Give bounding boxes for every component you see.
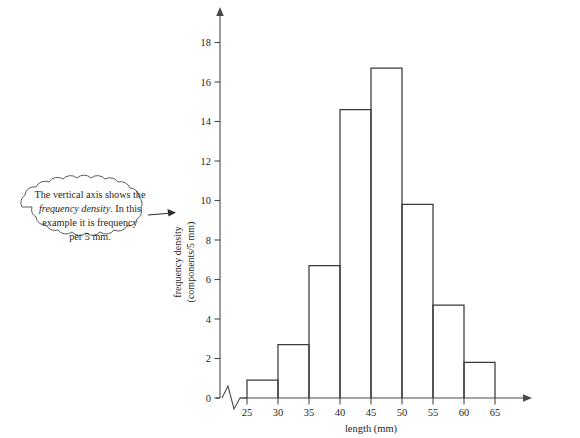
x-tick-35: 35 bbox=[304, 398, 315, 418]
x-axis-title: length (mm) bbox=[345, 423, 398, 435]
x-tick-55: 55 bbox=[428, 398, 439, 418]
x-tick-45: 45 bbox=[366, 398, 377, 418]
x-tick-label: 65 bbox=[490, 407, 501, 418]
x-tick-label: 40 bbox=[335, 407, 346, 418]
y-axis bbox=[216, 7, 224, 398]
histogram-bar bbox=[278, 345, 309, 398]
x-tick-50: 50 bbox=[397, 398, 408, 418]
x-tick-label: 30 bbox=[273, 407, 284, 418]
histogram-bars bbox=[247, 68, 495, 398]
y-tick-label: 0 bbox=[206, 393, 211, 404]
histogram-bar bbox=[402, 204, 433, 398]
callout-emphasis: frequency density bbox=[39, 203, 111, 214]
histogram-bar bbox=[433, 305, 464, 398]
histogram-bar bbox=[371, 68, 402, 398]
x-tick-label: 35 bbox=[304, 407, 315, 418]
x-tick-label: 25 bbox=[242, 407, 253, 418]
x-tick-label: 55 bbox=[428, 407, 439, 418]
histogram-bar bbox=[247, 380, 278, 398]
y-tick-10: 10 bbox=[201, 195, 221, 206]
y-tick-16: 16 bbox=[201, 77, 221, 88]
x-tick-label: 50 bbox=[397, 407, 408, 418]
y-tick-label: 4 bbox=[206, 314, 212, 325]
callout-bubble: The vertical axis shows the frequency de… bbox=[21, 175, 146, 242]
y-tick-6: 6 bbox=[206, 274, 220, 285]
y-tick-label: 6 bbox=[206, 274, 211, 285]
x-tick-label: 60 bbox=[459, 407, 470, 418]
y-tick-12: 12 bbox=[201, 156, 221, 167]
callout-line-2: frequency density. In this bbox=[39, 203, 141, 214]
y-tick-label: 2 bbox=[206, 353, 211, 364]
histogram-bar bbox=[309, 266, 340, 398]
y-axis-arrowhead bbox=[216, 7, 224, 16]
x-tick-60: 60 bbox=[459, 398, 470, 418]
y-tick-8: 8 bbox=[206, 235, 220, 246]
x-tick-65: 65 bbox=[490, 398, 501, 418]
callout-line-3: example it is frequency bbox=[42, 217, 138, 228]
x-tick-30: 30 bbox=[273, 398, 284, 418]
y-tick-label: 14 bbox=[201, 116, 212, 127]
histogram-figure: 0 2 4 6 8 10 1 bbox=[0, 0, 580, 438]
x-tick-40: 40 bbox=[335, 398, 346, 418]
y-axis-title-line2: (components/5 mm) bbox=[185, 222, 197, 303]
y-tick-label: 12 bbox=[201, 156, 212, 167]
callout-line-4: per 5 mm. bbox=[69, 231, 111, 242]
x-axis bbox=[216, 386, 532, 409]
y-tick-label: 10 bbox=[201, 195, 212, 206]
y-tick-label: 16 bbox=[201, 77, 212, 88]
x-tick-label: 45 bbox=[366, 407, 377, 418]
y-tick-14: 14 bbox=[201, 116, 221, 127]
y-tick-4: 4 bbox=[206, 314, 220, 325]
callout-leader bbox=[148, 209, 176, 217]
y-axis-title: frequency density (components/5 mm) bbox=[172, 222, 197, 303]
callout-line-2-rest: . In this bbox=[110, 203, 141, 214]
y-axis-ticks: 0 2 4 6 8 10 1 bbox=[201, 37, 221, 404]
y-tick-label: 8 bbox=[206, 235, 211, 246]
histogram-svg: 0 2 4 6 8 10 1 bbox=[0, 0, 580, 438]
histogram-bar bbox=[340, 110, 371, 398]
callout-line-1: The vertical axis shows the bbox=[35, 189, 146, 200]
y-tick-label: 18 bbox=[201, 37, 212, 48]
y-axis-title-line1: frequency density bbox=[172, 226, 183, 297]
x-axis-arrowhead bbox=[523, 394, 532, 402]
x-tick-25: 25 bbox=[242, 398, 253, 418]
y-tick-18: 18 bbox=[201, 37, 221, 48]
x-axis-ticks: 25 30 35 40 45 50 bbox=[242, 398, 501, 418]
histogram-bar bbox=[464, 362, 495, 398]
y-tick-2: 2 bbox=[206, 353, 220, 364]
leader-arrowhead-icon bbox=[168, 209, 177, 217]
